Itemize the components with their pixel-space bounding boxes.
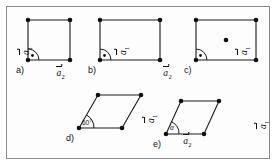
lattice-node xyxy=(164,132,169,137)
cell-a-right-angle-dot xyxy=(31,54,34,57)
bravais-lattice-figure: a1 a2 a) a1 a2 b) a1 a2 c) a1 a2 60° d) … xyxy=(0,0,278,167)
panel-d-vector-a1: a1 xyxy=(147,115,157,123)
panel-d-vector-a2: a2 xyxy=(183,137,191,147)
panel-letter-d: d) xyxy=(66,134,74,143)
panel-b-vector-a2: a2 xyxy=(163,69,171,79)
cell-c-right-angle-dot xyxy=(199,54,202,57)
vector-arrow-icon xyxy=(142,117,146,124)
lattice-node xyxy=(179,99,184,104)
panel-letter-a: a) xyxy=(16,66,24,75)
lattice-node xyxy=(98,18,103,23)
panel-letter-c: c) xyxy=(184,66,192,75)
panel-a-vector-a1: a1 xyxy=(22,47,32,55)
cell-b-right-angle-arc xyxy=(100,49,111,60)
lattice-node xyxy=(194,58,199,63)
vector-arrow-icon xyxy=(253,123,257,130)
lattice-node xyxy=(26,18,31,23)
lattice-node xyxy=(96,93,101,98)
cell-c-right-angle-arc xyxy=(196,49,207,60)
lattice-cells-canvas xyxy=(0,0,278,167)
lattice-node xyxy=(254,18,259,23)
vector-arrow-icon xyxy=(235,49,239,56)
lattice-node xyxy=(202,132,207,137)
lattice-node xyxy=(26,58,31,63)
lattice-node xyxy=(77,126,82,131)
lattice-center-node xyxy=(224,38,229,43)
panel-letter-b: b) xyxy=(88,66,96,75)
lattice-node xyxy=(139,93,144,98)
lattice-node xyxy=(68,58,73,63)
vector-arrow-icon xyxy=(17,49,21,56)
lattice-node xyxy=(68,18,73,23)
lattice-node xyxy=(158,18,163,23)
lattice-node xyxy=(194,18,199,23)
panel-e-vector-a1: a1 xyxy=(259,121,269,129)
panel-d-angle-label: 60° xyxy=(82,120,92,127)
panel-a-square xyxy=(26,18,73,63)
lattice-node xyxy=(158,58,163,63)
vector-arrow-icon xyxy=(56,64,63,68)
panel-c-centered-rectangle xyxy=(194,18,259,63)
cell-b-right-angle-dot xyxy=(103,54,106,57)
panel-e-angle-label: α xyxy=(170,124,174,132)
panel-b-vector-a1: a1 xyxy=(119,47,129,55)
panel-a-vector-a2: a2 xyxy=(56,69,64,79)
lattice-node xyxy=(120,126,125,131)
panel-c-vector-a1: a1 xyxy=(240,47,250,55)
vector-arrow-icon xyxy=(183,132,190,136)
lattice-node xyxy=(254,58,259,63)
panel-letter-e: e) xyxy=(153,140,161,149)
lattice-node xyxy=(217,99,222,104)
panel-b-rectangle xyxy=(98,18,163,63)
vector-arrow-icon xyxy=(163,64,170,68)
cell-a-outline xyxy=(28,20,70,60)
vector-arrow-icon xyxy=(114,49,118,56)
lattice-node xyxy=(98,58,103,63)
